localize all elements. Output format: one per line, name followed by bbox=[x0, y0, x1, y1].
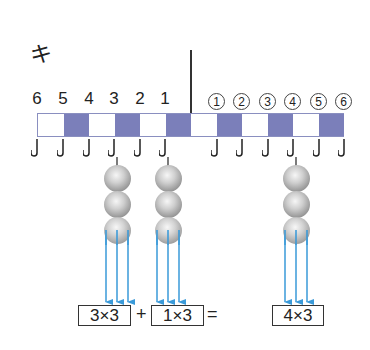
arrows-overlay bbox=[0, 0, 370, 350]
equation-term-1: 3×3 bbox=[78, 305, 131, 326]
equals-sign: = bbox=[207, 304, 218, 325]
equation-result: 4×3 bbox=[272, 305, 324, 326]
equation-term-2: 1×3 bbox=[151, 305, 204, 326]
plus-sign: + bbox=[136, 304, 147, 325]
